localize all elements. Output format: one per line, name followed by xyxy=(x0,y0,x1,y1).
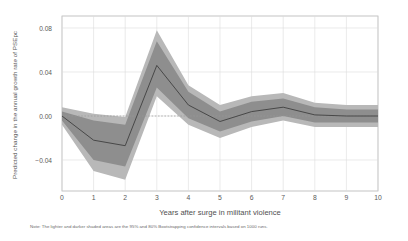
x-tick-label: 9 xyxy=(336,194,356,201)
chart-figure: Predicted change in the annual growth ra… xyxy=(0,0,408,241)
x-tick-label: 1 xyxy=(84,194,104,201)
x-tick-label: 4 xyxy=(178,194,198,201)
y-tick-label: 0.04 xyxy=(26,69,52,76)
y-tick-label: 0.00 xyxy=(26,113,52,120)
x-tick-label: 8 xyxy=(305,194,325,201)
x-tick-label: 0 xyxy=(52,194,72,201)
x-axis-title: Years after surge in militant violence xyxy=(62,208,378,217)
x-tick-label: 3 xyxy=(147,194,167,201)
x-tick-label: 5 xyxy=(210,194,230,201)
y-tick-label: −0.04 xyxy=(26,157,52,164)
chart-note: Note: The lighter and darker shaded area… xyxy=(30,224,268,229)
y-tick-label: 0.08 xyxy=(26,25,52,32)
x-tick-label: 10 xyxy=(368,194,388,201)
x-tick-label: 6 xyxy=(242,194,262,201)
x-tick-label: 2 xyxy=(115,194,135,201)
y-axis-tick-labels: −0.040.000.040.08 xyxy=(22,0,52,241)
y-axis-title: Predicted change in the annual growth ra… xyxy=(8,5,22,205)
plot-area xyxy=(0,0,408,241)
x-tick-label: 7 xyxy=(273,194,293,201)
